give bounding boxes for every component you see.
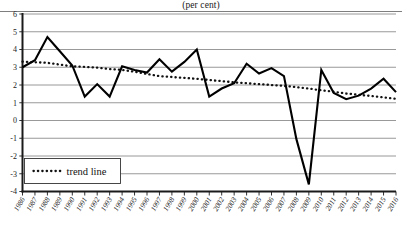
- y-tick-label--1: -1: [10, 134, 17, 143]
- x-tick-label-1988: 1988: [37, 195, 52, 213]
- y-tick-label-4: 4: [13, 45, 17, 54]
- legend-label-trend-line: trend line: [67, 166, 107, 177]
- y-tick-label-3: 3: [13, 63, 17, 72]
- y-axis-tick-labels: -4-3-2-10123456: [10, 10, 17, 197]
- y-tick-label-2: 2: [13, 81, 17, 90]
- x-tick-label-1990: 1990: [61, 195, 76, 213]
- x-tick-label-2002: 2002: [211, 195, 226, 213]
- x-tick-label-1991: 1991: [74, 196, 89, 213]
- y-tick-label--2: -2: [10, 152, 17, 161]
- x-tick-label-1997: 1997: [149, 195, 164, 213]
- x-tick-label-2000: 2000: [186, 195, 201, 213]
- x-tick-label-2007: 2007: [273, 195, 288, 213]
- y-tick-label-0: 0: [13, 116, 17, 125]
- x-tick-label-1989: 1989: [49, 195, 64, 213]
- x-tick-label-2003: 2003: [223, 195, 238, 213]
- x-tick-label-1986: 1986: [12, 195, 27, 213]
- x-tick-label-1995: 1995: [124, 195, 139, 213]
- y-tick-label-1: 1: [13, 99, 17, 108]
- x-tick-label-2014: 2014: [360, 195, 375, 213]
- x-tick-label-2016: 2016: [385, 195, 400, 213]
- x-tick-label-2008: 2008: [286, 195, 301, 213]
- x-tick-label-2010: 2010: [310, 195, 325, 213]
- x-tick-label-2009: 2009: [298, 195, 313, 213]
- x-tick-label-2005: 2005: [248, 195, 263, 213]
- x-tick-label-1994: 1994: [111, 195, 126, 213]
- y-tick-label-6: 6: [13, 10, 17, 19]
- y-tick-label--4: -4: [10, 187, 17, 196]
- x-tick-label-1999: 1999: [173, 195, 188, 213]
- x-tick-label-2006: 2006: [261, 195, 276, 213]
- x-tick-label-2001: 2001: [198, 196, 213, 213]
- x-tick-label-1992: 1992: [86, 195, 101, 213]
- x-tick-label-2012: 2012: [335, 195, 350, 213]
- y-tick-label--3: -3: [10, 170, 17, 179]
- x-tick-label-1998: 1998: [161, 195, 176, 213]
- chart-container: (per cent) -4-3-2-10123456 1986198719881…: [0, 0, 402, 225]
- x-tick-label-1996: 1996: [136, 195, 151, 213]
- x-axis-tick-labels: 1986198719881989199019911992199319941995…: [12, 195, 401, 213]
- x-tick-label-1987: 1987: [24, 195, 39, 213]
- line-chart-plot: -4-3-2-10123456 198619871988198919901991…: [0, 0, 402, 225]
- x-tick-label-1993: 1993: [99, 195, 114, 213]
- chart-legend: trend line: [25, 159, 121, 184]
- x-tick-label-2013: 2013: [348, 195, 363, 213]
- x-tick-label-2011: 2011: [323, 196, 338, 213]
- y-tick-label-5: 5: [13, 28, 17, 37]
- x-tick-label-2004: 2004: [236, 195, 251, 213]
- x-tick-label-2015: 2015: [373, 195, 388, 213]
